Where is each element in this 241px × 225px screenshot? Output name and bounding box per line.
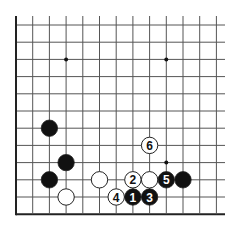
- move-number: 4: [113, 191, 120, 205]
- white-stone-icon: [141, 172, 157, 188]
- white-stone: [91, 172, 107, 188]
- star-point-icon: [164, 57, 168, 61]
- black-stone-5: 5: [158, 172, 174, 188]
- white-stone-2: 2: [125, 172, 141, 188]
- black-stone: [58, 154, 74, 170]
- move-number: 3: [146, 191, 153, 205]
- black-stone-3: 3: [141, 189, 157, 205]
- move-number: 1: [130, 191, 137, 205]
- move-number: 2: [130, 173, 137, 187]
- white-stone-icon: [58, 189, 74, 205]
- white-stone: [58, 189, 74, 205]
- black-stone-icon: [58, 154, 74, 170]
- move-number: 6: [146, 139, 153, 153]
- move-number: 5: [163, 173, 170, 187]
- black-stone-icon: [41, 172, 57, 188]
- black-stone-1: 1: [125, 189, 141, 205]
- black-stone: [41, 120, 57, 136]
- star-point-icon: [64, 57, 68, 61]
- star-point-icon: [164, 161, 168, 165]
- white-stone-icon: [91, 172, 107, 188]
- black-stone-icon: [175, 172, 191, 188]
- white-stone: [141, 172, 157, 188]
- black-stone: [41, 172, 57, 188]
- white-stone-6: 6: [141, 137, 157, 153]
- black-stone-icon: [41, 120, 57, 136]
- white-stone-4: 4: [108, 189, 124, 205]
- go-board: 256413: [0, 0, 241, 225]
- black-stone: [175, 172, 191, 188]
